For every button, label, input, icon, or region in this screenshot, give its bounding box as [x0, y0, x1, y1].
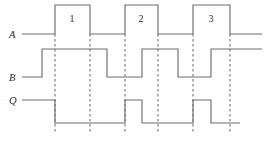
- signal-label-a: A: [8, 29, 16, 40]
- timing-diagram-canvas: ABQ 123: [0, 0, 268, 141]
- waveform-trace-b: [22, 49, 262, 77]
- signal-label-group: ABQ: [8, 29, 17, 106]
- pulse-number-label: 3: [209, 13, 214, 24]
- pulse-number-label: 2: [139, 13, 144, 24]
- pulse-number-label: 1: [70, 13, 75, 24]
- waveform-trace-q: [22, 100, 240, 123]
- timing-diagram-figure: ABQ 123: [0, 0, 268, 141]
- signal-label-q: Q: [9, 95, 17, 106]
- signal-label-b: B: [9, 72, 16, 83]
- pulse-number-label-group: 123: [70, 13, 214, 24]
